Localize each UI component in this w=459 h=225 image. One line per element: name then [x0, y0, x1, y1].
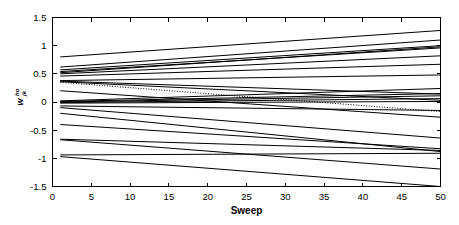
y-tick-label-6: 1.5 [33, 12, 46, 23]
y-axis-title-subscript: jk [21, 90, 27, 97]
x-tick-label-9: 45 [396, 191, 407, 202]
weight-trajectory-chart: 05101520253035404550 -1.5-1-0.500.511.5 … [0, 0, 459, 225]
y-axis-title-superscript: ho [14, 88, 20, 96]
y-tick-label-2: -0.5 [30, 125, 46, 136]
y-tick-label-5: 1 [41, 40, 46, 51]
y-tick-label-0: -1.5 [30, 181, 46, 192]
x-tick-label-4: 20 [202, 191, 213, 202]
x-tick-label-3: 15 [164, 191, 175, 202]
y-tick-label-3: 0 [41, 96, 46, 107]
y-tick-label-4: 0.5 [33, 68, 46, 79]
x-tick-label-8: 40 [358, 191, 369, 202]
x-tick-label-2: 10 [125, 191, 136, 202]
y-tick-label-1: -1 [38, 153, 46, 164]
y-axis-title-text: w [15, 98, 25, 106]
x-tick-label-7: 35 [319, 191, 330, 202]
x-tick-label-0: 0 [50, 191, 55, 202]
x-tick-label-10: 50 [435, 191, 446, 202]
x-tick-label-1: 5 [89, 191, 94, 202]
x-axis-title: Sweep [231, 205, 263, 216]
chart-figure: 05101520253035404550 -1.5-1-0.500.511.5 … [0, 0, 459, 225]
x-tick-label-5: 25 [241, 191, 252, 202]
x-tick-label-6: 30 [280, 191, 291, 202]
x-axis-title-text: Sweep [231, 205, 263, 216]
